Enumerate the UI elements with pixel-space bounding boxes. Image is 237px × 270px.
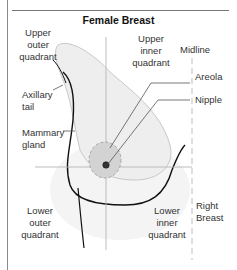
areola-shape — [89, 142, 121, 178]
label-lower-inner-quadrant: Lower inner quadrant — [147, 205, 187, 241]
label-line: Upper — [127, 33, 175, 45]
label-upper-outer-quadrant: Upper outer quadrant — [16, 27, 60, 63]
label-upper-inner-quadrant: Upper inner quadrant — [127, 33, 175, 69]
label-line: inner — [127, 45, 175, 57]
nipple-shape — [103, 162, 109, 168]
label-line: Mammary — [22, 127, 64, 139]
label-right-breast: Right Breast — [196, 200, 223, 224]
label-lower-outer-quadrant: Lower outer quadrant — [20, 205, 60, 241]
label-line: gland — [22, 139, 64, 151]
label-line: quadrant — [127, 57, 175, 69]
label-line: Lower — [20, 205, 60, 217]
label-line: quadrant — [147, 229, 187, 241]
label-line: tail — [22, 101, 53, 113]
label-midline: Midline — [180, 44, 210, 56]
label-line: quadrant — [16, 51, 60, 63]
label-areola: Areola — [195, 71, 222, 83]
label-line: Breast — [196, 212, 223, 224]
label-mammary-gland: Mammary gland — [22, 127, 64, 151]
label-line: Upper — [16, 27, 60, 39]
label-line: Right — [196, 200, 223, 212]
axillary-leader — [53, 85, 63, 90]
label-line: Axillary — [22, 89, 53, 101]
label-line: Lower — [147, 205, 187, 217]
label-line: outer — [20, 217, 60, 229]
label-line: inner — [147, 217, 187, 229]
label-axillary-tail: Axillary tail — [22, 89, 53, 113]
label-nipple: Nipple — [195, 94, 222, 106]
label-line: outer — [16, 39, 60, 51]
label-line: quadrant — [20, 229, 60, 241]
